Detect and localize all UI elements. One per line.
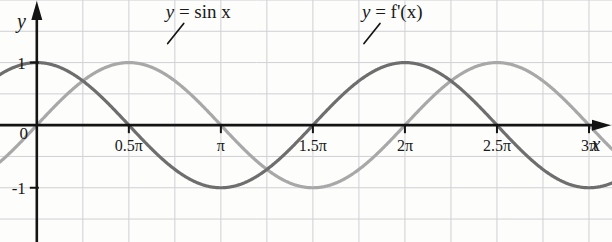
chart-background xyxy=(0,0,612,242)
x-tick-label: π xyxy=(217,137,225,154)
chart-canvas: -0.5π00.5ππ1.5π2π2.5π3π1-1yxy = sin xy =… xyxy=(0,0,612,242)
x-tick-label: 2π xyxy=(397,137,413,154)
y-axis-label: y xyxy=(15,10,26,33)
x-tick-label: 0.5π xyxy=(115,137,143,154)
x-tick-label: 1.5π xyxy=(299,137,327,154)
x-tick-label: 2.5π xyxy=(483,137,511,154)
x-axis-label: x xyxy=(591,133,601,155)
annotation-label-fprime: y = f'(x) xyxy=(360,1,423,23)
y-tick-label: 1 xyxy=(17,54,26,73)
annotation-label-sin: y = sin x xyxy=(164,1,232,22)
sine-derivative-graph-figure: -0.5π00.5ππ1.5π2π2.5π3π1-1yxy = sin xy =… xyxy=(0,0,612,242)
y-tick-label: -1 xyxy=(12,179,26,198)
x-tick-label: 0 xyxy=(20,124,29,143)
